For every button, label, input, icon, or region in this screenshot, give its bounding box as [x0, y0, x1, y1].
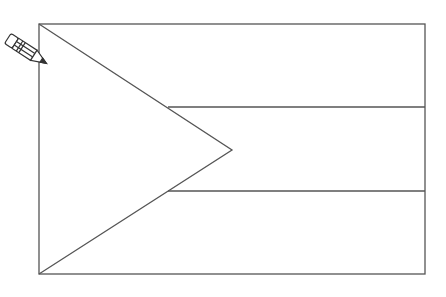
- flag-outline: [39, 24, 425, 274]
- flag-outline-canvas: [0, 0, 446, 297]
- hoist-triangle: [39, 24, 232, 274]
- pencil-icon: [5, 33, 50, 68]
